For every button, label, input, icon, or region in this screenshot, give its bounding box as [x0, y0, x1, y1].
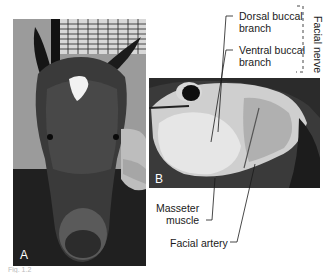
label-facial-nerve: Facial nerve [312, 16, 324, 73]
label-masseter-muscle: Masseter muscle [156, 202, 199, 226]
label-ventral-buccal-branch: Ventral buccal branch [239, 44, 305, 68]
label-facial-artery: Facial artery [170, 237, 228, 249]
label-dorsal-buccal-branch: Dorsal buccal branch [239, 10, 303, 34]
figure-caption: Fig. 1.2 [8, 266, 31, 273]
